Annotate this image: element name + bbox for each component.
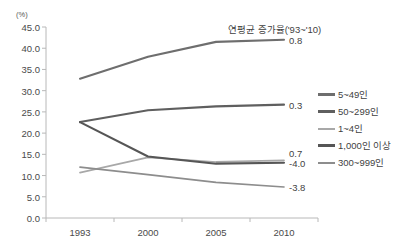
legend-item[interactable]: 300~999인 [318,154,410,171]
legend-color-swatch [318,93,335,96]
legend-item-label: 1,000인 이상 [338,141,391,151]
legend-item[interactable]: 1~4인 [318,120,410,137]
legend-item[interactable]: 50~299인 [318,103,410,120]
series-line [80,122,284,164]
line-chart: (%) 0.05.010.015.020.025.030.035.040.045… [0,0,410,251]
annotation-header: 연평균 증가율('93~'10) [228,22,321,36]
x-axis-ticks [46,218,318,222]
legend-color-swatch [318,144,335,147]
x-axis-tick-label: 2010 [273,227,294,238]
y-axis-tick-label: 30.0 [6,85,40,96]
y-axis-tick-label: 45.0 [6,22,40,33]
x-axis-tick-label: 1993 [69,227,90,238]
y-axis-tick-labels: 0.05.010.015.020.025.030.035.040.045.0 [0,0,40,251]
x-axis-tick-label: 2005 [205,227,226,238]
series-line [80,105,284,122]
legend-color-swatch [318,162,335,164]
series-line [80,40,284,79]
y-axis-tick-label: 0.0 [6,213,40,224]
legend-item[interactable]: 5~49인 [318,86,410,103]
legend-color-swatch [318,128,335,130]
y-axis-tick-label: 5.0 [6,191,40,202]
legend-item-label: 5~49인 [338,90,368,100]
legend-item-label: 1~4인 [338,124,363,134]
legend-color-swatch [318,110,335,113]
legend-item[interactable]: 1,000인 이상 [318,137,410,154]
data-series-lines [80,40,284,187]
growth-rate-label: -3.8 [289,182,305,193]
y-axis-tick-label: 10.0 [6,170,40,181]
y-axis-tick-label: 40.0 [6,43,40,54]
chart-legend: 5~49인50~299인1~4인1,000인 이상300~999인 [318,86,410,171]
y-axis-ticks [42,27,46,218]
y-axis-tick-label: 25.0 [6,106,40,117]
axis-lines [46,27,318,218]
chart-title-clipped [78,0,328,2]
y-axis-tick-label: 15.0 [6,149,40,160]
x-axis-tick-label: 2000 [137,227,158,238]
legend-item-label: 300~999인 [338,158,384,168]
y-axis-tick-label: 20.0 [6,128,40,139]
y-axis-tick-label: 35.0 [6,64,40,75]
growth-rate-label: -4.0 [289,157,305,168]
legend-item-label: 50~299인 [338,107,379,117]
series-line [80,167,284,187]
growth-rate-label: 0.3 [289,99,302,110]
